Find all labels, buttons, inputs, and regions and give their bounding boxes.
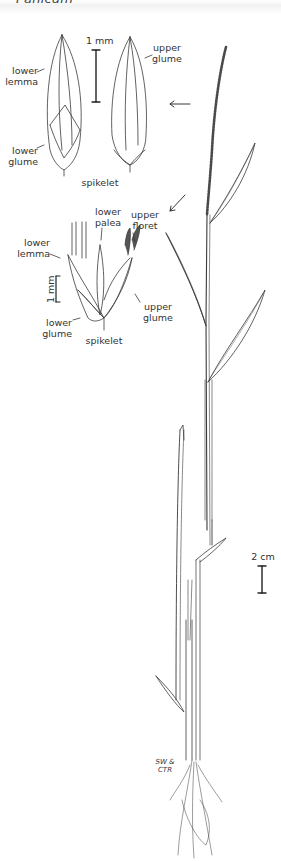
spikelet-back-drawing xyxy=(112,37,147,172)
caption-spikelet-top: spikelet xyxy=(80,178,120,189)
arrow-down-left xyxy=(170,195,185,211)
caption-spikelet-mid: spikelet xyxy=(84,336,124,347)
spikelet-front-drawing xyxy=(47,35,81,176)
scale-label-1mm-top: 1 mm xyxy=(86,36,114,47)
scale-bar-1mm-top xyxy=(92,50,100,102)
arrow-left xyxy=(170,101,190,107)
label-lower-glume-top: lower glume xyxy=(4,146,38,167)
label-lower-lemma-top: lower lemma xyxy=(4,66,38,87)
scale-bar-1mm-mid xyxy=(56,276,60,302)
label-lower-palea: lower palea xyxy=(92,207,124,228)
label-upper-glume-top: upper glume xyxy=(150,43,184,64)
artist-signature: SW & CTR xyxy=(154,758,176,774)
label-upper-glume-mid: upper glume xyxy=(140,302,176,323)
botanical-illustration xyxy=(0,0,281,861)
label-upper-floret: upper floret xyxy=(128,210,162,231)
scale-bar-2cm xyxy=(258,566,266,593)
label-lower-glume-mid: lower glume xyxy=(36,318,72,339)
scale-label-1mm-mid: 1 mm xyxy=(46,274,57,304)
scale-label-2cm: 2 cm xyxy=(249,552,277,563)
label-lower-lemma-mid: lower lemma xyxy=(14,238,50,259)
plant-drawing xyxy=(156,47,265,858)
open-spikelet-drawing xyxy=(68,222,140,330)
